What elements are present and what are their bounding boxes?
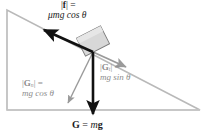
inclined-plane-diagram: |f| = μmg cos θ |Gn| = mg cos θ |Gt| = m… bbox=[0, 0, 209, 140]
tangential-component-label: |Gt| = mg sin θ bbox=[100, 63, 130, 83]
weight-label-gravity: g bbox=[98, 119, 103, 130]
friction-label: |f| = μmg cos θ bbox=[48, 1, 86, 21]
weight-label-mass: m bbox=[90, 119, 97, 130]
weight-label-equals: = bbox=[80, 119, 91, 130]
normal-component-label: |Gn| = mg cos θ bbox=[22, 79, 54, 99]
weight-label-vector: G bbox=[72, 119, 80, 130]
friction-label-line2: μmg cos θ bbox=[48, 11, 86, 21]
tangential-component-label-line2: mg sin θ bbox=[100, 73, 130, 82]
normal-component-label-line2: mg cos θ bbox=[22, 89, 54, 98]
weight-label: G = mg bbox=[72, 120, 103, 131]
